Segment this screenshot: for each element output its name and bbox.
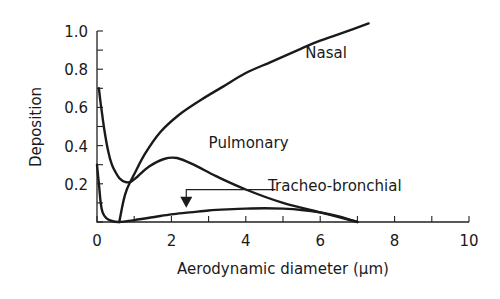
x-tick-label: 8 <box>390 232 400 250</box>
y-tick-label: 0.4 <box>64 138 88 156</box>
label-pulmonary: Pulmonary <box>209 134 289 152</box>
deposition-chart: 02468100.20.40.60.81.0 NasalPulmonaryTra… <box>0 0 500 299</box>
x-tick-label: 2 <box>167 232 177 250</box>
pointer-line <box>186 190 275 199</box>
y-tick-label: 0.8 <box>64 61 88 79</box>
y-tick-label: 1.0 <box>64 23 88 41</box>
y-tick-label: 0.2 <box>64 176 88 194</box>
x-tick-label: 6 <box>315 232 325 250</box>
annotations <box>180 190 275 208</box>
curve-pulmonary <box>99 88 358 222</box>
x-tick-label: 4 <box>241 232 251 250</box>
series-labels: NasalPulmonaryTracheo-bronchial <box>209 44 402 196</box>
x-tick-label: 0 <box>92 232 102 250</box>
arrow-down-icon <box>180 197 192 208</box>
label-nasal: Nasal <box>305 44 347 62</box>
y-axis-title: Deposition <box>27 87 45 167</box>
label-tracheo-bronchial: Tracheo-bronchial <box>267 177 402 195</box>
x-tick-label: 10 <box>459 232 478 250</box>
y-tick-label: 0.6 <box>64 99 88 117</box>
x-axis-title: Aerodynamic diameter (µm) <box>177 260 389 278</box>
